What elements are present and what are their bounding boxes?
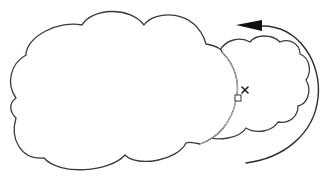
diagram-svg <box>0 0 328 181</box>
main-cloud-shape[interactable] <box>11 11 238 169</box>
rotation-handle[interactable] <box>235 95 241 101</box>
diagram-canvas <box>0 0 328 181</box>
rotation-arrow-head-icon <box>236 20 262 31</box>
